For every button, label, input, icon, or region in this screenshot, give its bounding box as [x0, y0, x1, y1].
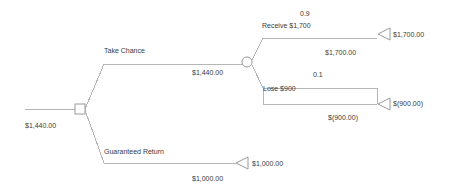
edge-receive-1700	[252, 38, 377, 60]
terminal-value-lose: $(900.00)	[393, 99, 423, 108]
terminal-node-lose-triangle-icon[interactable]	[378, 98, 390, 110]
edge-label-lose: Lose $900	[263, 84, 296, 93]
decision-node-square[interactable]	[75, 104, 85, 114]
decision-tree-diagram: $1,440.00 Take Chance $1,440.00 0.9 Rece…	[0, 0, 451, 192]
edge-value-take-chance: $1,440.00	[192, 68, 223, 77]
chance-node-circle[interactable]	[242, 57, 252, 67]
decision-tree-canvas	[0, 0, 451, 192]
terminal-value-receive: $1,700.00	[393, 30, 424, 39]
edge-value-guaranteed: $1,000.00	[192, 174, 223, 183]
terminal-value-guaranteed: $1,000.00	[252, 159, 283, 168]
edge-label-receive: Receive $1,700	[262, 21, 311, 30]
terminal-node-receive-triangle-icon[interactable]	[378, 28, 390, 40]
probability-label-lose: 0.1	[313, 70, 323, 79]
root-value-label: $1,440.00	[25, 121, 56, 130]
edge-label-guaranteed-return: Guaranteed Return	[104, 147, 164, 156]
edge-value-receive: $1,700.00	[325, 48, 356, 57]
edge-value-lose: $(900.00)	[328, 113, 358, 122]
probability-label-receive: 0.9	[300, 9, 310, 18]
edge-label-take-chance: Take Chance	[104, 46, 145, 55]
terminal-node-guaranteed-triangle-icon[interactable]	[236, 157, 248, 169]
